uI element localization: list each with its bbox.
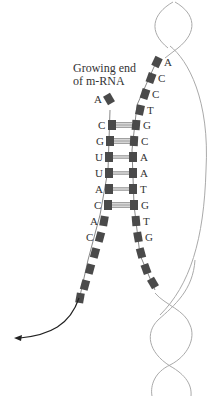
mrna-base-label: G	[96, 135, 104, 147]
mrna-loose-base-label: A	[94, 93, 102, 105]
mrna-strand: CGUUACACA	[75, 93, 116, 304]
template-base-label: G	[145, 231, 153, 243]
mrna-nucleotide	[104, 200, 112, 210]
template-nucleotide	[132, 120, 141, 131]
dna-helix-top	[155, 2, 207, 315]
template-base-label: G	[143, 119, 151, 131]
caption-line-2: of m-RNA	[73, 74, 125, 88]
arrow-curve	[20, 298, 79, 338]
template-nucleotide	[129, 168, 137, 178]
template-base-label: C	[141, 135, 148, 147]
mrna-base-label: U	[95, 151, 103, 163]
template-nucleotide	[130, 200, 138, 210]
mrna-base-label: C	[86, 231, 93, 243]
release-arrow	[14, 298, 79, 341]
mrna-nucleotide	[85, 263, 95, 275]
template-nucleotide	[129, 184, 137, 194]
mrna-nucleotide	[105, 184, 113, 194]
mrna-base-label: C	[98, 119, 105, 131]
template-base-label: T	[140, 183, 147, 195]
mrna-nucleotide	[105, 168, 113, 178]
dna-helix-bottom	[150, 260, 195, 396]
template-nucleotide	[147, 277, 159, 290]
template-nucleotide	[129, 152, 137, 162]
template-base-label: A	[140, 167, 148, 179]
base-pair-bonds	[112, 123, 132, 207]
mrna-base-label: U	[95, 167, 103, 179]
mrna-base-label: A	[90, 215, 98, 227]
helix-strand	[152, 293, 192, 396]
mrna-nucleotide	[75, 292, 85, 303]
coding-strand	[160, 46, 206, 315]
template-base-label: C	[152, 88, 159, 100]
helix-strand	[165, 2, 192, 58]
template-nucleotide	[133, 231, 143, 242]
transcription-diagram: ACCTGCAATGTG CGUUACACA Growing end of m-…	[0, 0, 215, 396]
mrna-base-label: C	[94, 199, 101, 211]
mrna-nucleotide	[99, 215, 109, 226]
template-base-label: A	[140, 151, 148, 163]
template-base-label: A	[164, 56, 172, 68]
arrow-head-icon	[14, 335, 22, 341]
mrna-nucleotide	[95, 231, 105, 243]
mrna-nucleotide	[105, 152, 113, 162]
template-base-label: C	[158, 72, 165, 84]
mrna-nucleotide	[80, 279, 90, 291]
template-nucleotide	[132, 216, 141, 227]
template-nucleotide	[151, 56, 162, 68]
mrna-nucleotide	[108, 120, 116, 130]
mrna-loose-nucleotide	[103, 93, 115, 106]
mrna-base-label: A	[95, 183, 103, 195]
template-nucleotide	[136, 247, 146, 259]
template-strand: ACCTGCAATGTG	[129, 56, 172, 290]
template-nucleotide	[140, 88, 151, 100]
template-base-label: G	[141, 199, 149, 211]
template-base-label: T	[143, 215, 150, 227]
template-nucleotide	[130, 136, 139, 146]
mrna-nucleotide	[106, 136, 114, 146]
helix-strand	[155, 2, 173, 48]
template-nucleotide	[141, 263, 152, 275]
template-base-label: T	[147, 104, 154, 116]
caption-line-1: Growing end	[73, 61, 136, 75]
